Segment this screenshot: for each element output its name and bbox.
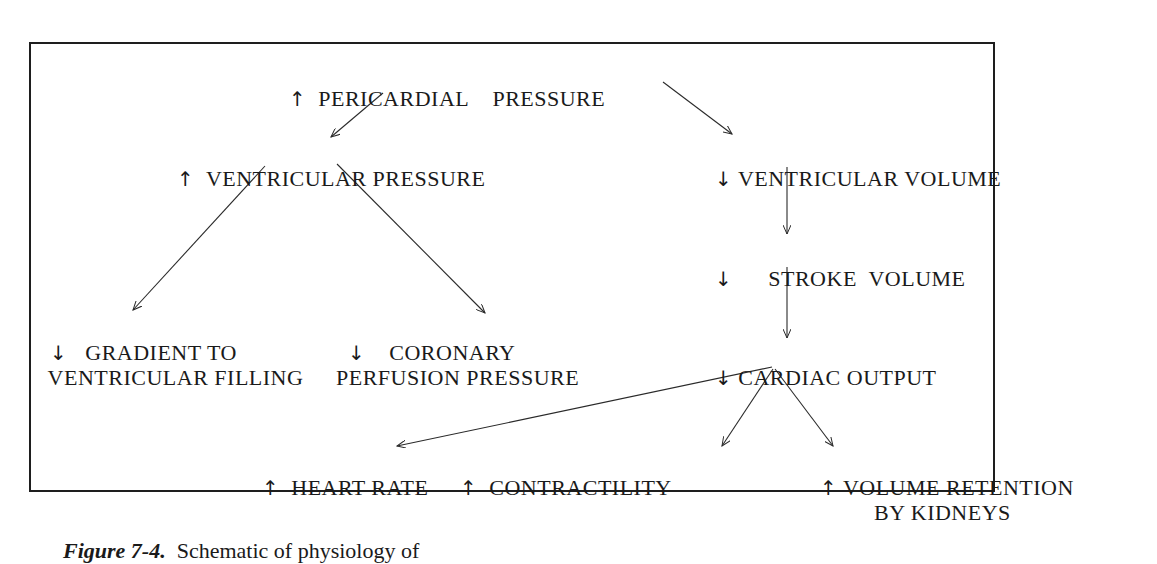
node-ventricular-pressure: ↑ VENTRICULAR PRESSURE (165, 143, 485, 191)
node-stroke-volume: ↓ STROKE VOLUME (703, 243, 966, 291)
node-label-line2: BY KIDNEYS (874, 500, 1011, 525)
node-label-line2: VENTRICULAR FILLING (48, 365, 304, 390)
arrow-pericardial-to-ventricular-volume (663, 82, 732, 134)
increase-arrow-icon: ↑ (289, 87, 306, 111)
caption-text: Schematic of physiology of (177, 538, 420, 563)
node-coronary-line2: PERFUSION PRESSURE (324, 342, 579, 390)
increase-arrow-icon: ↑ (177, 167, 194, 191)
node-heart-rate: ↑ HEART RATE (250, 452, 428, 500)
node-label: CARDIAC OUTPUT (738, 365, 936, 390)
node-cardiac-output: ↓ CARDIAC OUTPUT (703, 342, 937, 390)
node-ventricular-volume: ↓ VENTRICULAR VOLUME (703, 143, 1001, 191)
node-volume-retention-line2: BY KIDNEYS (862, 477, 987, 525)
node-label: VENTRICULAR PRESSURE (206, 166, 486, 191)
node-label: STROKE VOLUME (768, 266, 965, 291)
decrease-arrow-icon: ↓ (715, 267, 732, 291)
figure-caption: Figure 7-4. Schematic of physiology of (52, 512, 419, 564)
node-gradient-line2: VENTRICULAR FILLING (36, 342, 303, 390)
node-contractility: ↑ CONTRACTILITY (448, 452, 672, 500)
node-pericardial-pressure: ↑ PERICARDIAL PRESSURE (277, 63, 605, 111)
figure-number: Figure 7-4. (63, 538, 166, 563)
node-label-line2: PERFUSION PRESSURE (336, 365, 579, 390)
increase-arrow-icon: ↑ (460, 476, 477, 500)
increase-arrow-icon: ↑ (820, 476, 837, 500)
node-label: PERICARDIAL PRESSURE (318, 86, 605, 111)
node-label: CONTRACTILITY (489, 475, 671, 500)
increase-arrow-icon: ↑ (262, 476, 279, 500)
decrease-arrow-icon: ↓ (715, 366, 732, 390)
decrease-arrow-icon: ↓ (715, 167, 732, 191)
node-label: HEART RATE (291, 475, 428, 500)
node-label: VENTRICULAR VOLUME (738, 166, 1001, 191)
